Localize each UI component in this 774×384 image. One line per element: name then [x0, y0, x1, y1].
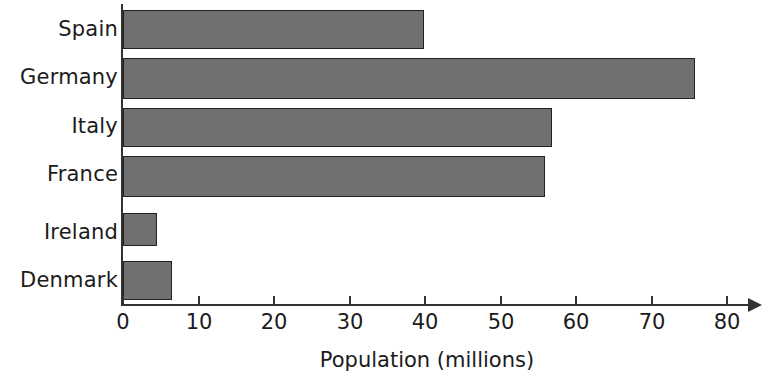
x-axis-title: Population (millions) — [0, 350, 774, 371]
bar-italy — [123, 108, 552, 147]
x-tick-label-30: 30 — [320, 312, 380, 333]
x-tick-30 — [349, 296, 351, 306]
x-tick-label-80: 80 — [697, 312, 757, 333]
x-tick-label-60: 60 — [546, 312, 606, 333]
x-tick-label-20: 20 — [244, 312, 304, 333]
category-label-spain: Spain — [0, 19, 118, 40]
bar-ireland — [123, 213, 157, 246]
bar-germany — [123, 58, 695, 99]
y-axis-line — [121, 4, 123, 306]
category-label-ireland: Ireland — [0, 222, 118, 243]
x-axis-line — [121, 304, 753, 306]
x-tick-20 — [273, 296, 275, 306]
bar-chart: Spain Germany Italy France Ireland Denma… — [0, 0, 774, 384]
x-tick-60 — [575, 296, 577, 306]
x-tick-label-40: 40 — [395, 312, 455, 333]
x-tick-40 — [424, 296, 426, 306]
category-label-germany: Germany — [0, 67, 118, 88]
x-tick-80 — [726, 296, 728, 306]
category-label-denmark: Denmark — [0, 270, 118, 291]
bar-france — [123, 156, 545, 197]
x-tick-label-0: 0 — [93, 312, 153, 333]
x-tick-label-10: 10 — [169, 312, 229, 333]
x-tick-label-70: 70 — [622, 312, 682, 333]
x-tick-50 — [500, 296, 502, 306]
category-label-italy: Italy — [0, 116, 118, 137]
x-tick-10 — [198, 296, 200, 306]
x-tick-label-50: 50 — [471, 312, 531, 333]
bar-spain — [123, 10, 424, 49]
x-tick-0 — [122, 296, 124, 306]
x-axis-title-text: Population (millions) — [320, 350, 534, 371]
bar-denmark — [123, 261, 172, 300]
x-axis-arrow-icon — [748, 298, 762, 312]
category-label-france: France — [0, 164, 118, 185]
x-tick-70 — [651, 296, 653, 306]
